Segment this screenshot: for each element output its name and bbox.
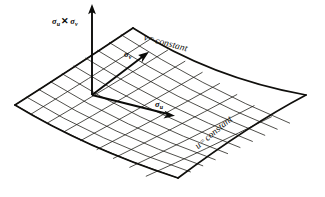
sigma-v-subscript: v: [75, 21, 78, 27]
tangent-u-label: σu: [155, 99, 163, 110]
mesh-u-curves: [15, 28, 271, 176]
tangent-v-subscript: v: [129, 54, 132, 60]
normal-vector-label: σu✕σv: [52, 16, 78, 27]
normal-vector-arrow: [88, 4, 96, 95]
tangent-v-label: σv: [124, 49, 131, 60]
cross-product-icon: ✕: [60, 16, 70, 26]
surface-figure: σu✕σv σv σu v=constant u=constant: [0, 0, 325, 197]
tangent-u-subscript: u: [160, 104, 163, 110]
